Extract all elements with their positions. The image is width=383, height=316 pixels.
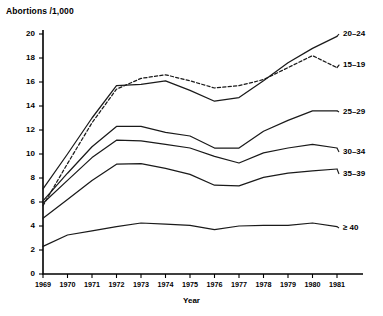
leader-line-30-34 xyxy=(337,148,339,152)
y-tick-label: 14 xyxy=(9,102,35,110)
y-tick-label: 8 xyxy=(9,174,35,182)
leader-line-40plus xyxy=(337,227,339,228)
data-series xyxy=(43,36,337,246)
y-tick-label: 10 xyxy=(9,150,35,158)
y-tick-label: 18 xyxy=(9,54,35,62)
series-line-15-19 xyxy=(43,56,337,206)
chart-container: Abortions /1,000 Year 02468101214161820 … xyxy=(0,0,383,316)
y-tick-label: 6 xyxy=(9,198,35,206)
leader-line-35-39 xyxy=(337,169,339,174)
series-label-35-39: 35–39 xyxy=(343,170,365,178)
leader-line-25-29 xyxy=(337,111,339,112)
x-tick-label: 1981 xyxy=(320,281,354,289)
chart-plot-area xyxy=(0,0,383,316)
axes xyxy=(39,30,363,278)
series-label-40-plus: ≥ 40 xyxy=(343,224,359,232)
series-line-40plus xyxy=(43,223,337,246)
leader-line-15-19 xyxy=(337,65,339,68)
series-line-20-24 xyxy=(43,36,337,188)
series-line-30-34 xyxy=(43,140,337,203)
y-tick-label: 4 xyxy=(9,222,35,230)
series-line-35-39 xyxy=(43,164,337,219)
y-tick-label: 2 xyxy=(9,246,35,254)
series-label-25-29: 25–29 xyxy=(343,108,365,116)
y-tick-label: 0 xyxy=(9,270,35,278)
series-label-20-24: 20–24 xyxy=(343,30,365,38)
series-leader-lines xyxy=(337,34,339,228)
leader-line-20-24 xyxy=(337,34,339,36)
series-label-30-34: 30–34 xyxy=(343,148,365,156)
y-tick-label: 12 xyxy=(9,126,35,134)
y-tick-label: 16 xyxy=(9,78,35,86)
series-label-15-19: 15–19 xyxy=(343,61,365,69)
y-tick-label: 20 xyxy=(9,30,35,38)
